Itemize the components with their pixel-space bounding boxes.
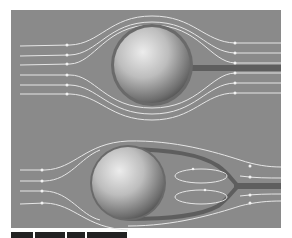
caption-glyphs [11,232,33,238]
figure-caption [11,232,151,238]
flow-diagram [0,0,292,238]
caption-glyphs [35,232,65,238]
bottom-sphere [92,147,164,219]
caption-glyphs [87,232,127,238]
caption-glyphs [67,232,85,238]
bottom-wake [234,183,281,189]
top-sphere [114,27,190,103]
top-wake [188,65,281,71]
